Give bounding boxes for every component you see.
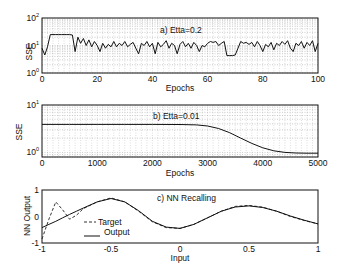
panel-a-sse-line xyxy=(42,35,318,56)
tick-label: 101 xyxy=(26,40,39,51)
tick-label: 5000 xyxy=(309,158,328,168)
tick-label: 60 xyxy=(203,74,213,84)
tick-label: 0 xyxy=(40,74,45,84)
tick-label: -1 xyxy=(38,244,46,254)
legend-output-label: Output xyxy=(104,227,130,237)
tick-label: 1 xyxy=(316,244,321,254)
tick-label: 40 xyxy=(148,74,158,84)
tick-label: 1 xyxy=(34,185,39,195)
panel-b-sse-line xyxy=(42,124,318,153)
panel-c-title: c) NN Recalling xyxy=(157,193,216,203)
panel-c-target-line xyxy=(42,198,318,239)
panel-b-ylabel: SSE xyxy=(14,123,24,140)
legend-target-label: Target xyxy=(98,217,122,227)
panel-b-xlabel: Epochs xyxy=(166,168,194,178)
tick-label: 0.5 xyxy=(243,244,255,254)
tick-label: -1 xyxy=(31,238,39,248)
panel-b-sse-etta-0.01: b) Etta=0.01 SSE Epochs 0100020003000400… xyxy=(14,99,328,178)
tick-label: 4000 xyxy=(253,158,272,168)
tick-label: -0.5 xyxy=(104,244,119,254)
panel-c-nn-recalling: c) NN Recalling NN Output Input Target O… xyxy=(22,185,321,263)
tick-label: 100 xyxy=(311,74,325,84)
tick-label: 1000 xyxy=(88,158,107,168)
tick-label: 101 xyxy=(26,99,39,110)
tick-label: 0 xyxy=(34,212,39,222)
figure: a) Etta=0.2 SSE Epochs 02040608010010010… xyxy=(0,0,343,273)
panel-c-xlabel: Input xyxy=(171,253,191,263)
tick-label: 80 xyxy=(258,74,268,84)
tick-label: 0 xyxy=(178,244,183,254)
tick-label: 100 xyxy=(26,67,39,78)
tick-label: 102 xyxy=(26,12,39,23)
tick-label: 3000 xyxy=(198,158,217,168)
tick-label: 100 xyxy=(26,146,39,157)
panel-a-xlabel: Epochs xyxy=(166,83,194,93)
panel-c-ylabel: NN Output xyxy=(22,195,32,236)
tick-label: 2000 xyxy=(143,158,162,168)
panel-b-title: b) Etta=0.01 xyxy=(153,111,200,121)
panel-a-sse-etta-0.2: a) Etta=0.2 SSE Epochs 02040608010010010… xyxy=(24,12,325,93)
tick-label: 0 xyxy=(40,158,45,168)
panel-a-title: a) Etta=0.2 xyxy=(160,25,202,35)
tick-label: 20 xyxy=(92,74,102,84)
panel-c-legend: Target Output xyxy=(84,217,130,237)
